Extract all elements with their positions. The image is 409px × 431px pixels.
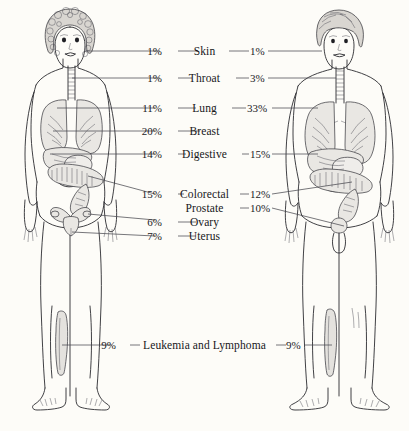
figure-artwork: .o{fill:none;stroke:#2b2b30;stroke-width… <box>0 0 409 431</box>
male-figure <box>285 10 394 410</box>
leader-lines <box>50 51 352 345</box>
anatomical-cancer-diagram: .o{fill:none;stroke:#2b2b30;stroke-width… <box>0 0 409 431</box>
female-figure <box>24 7 117 410</box>
